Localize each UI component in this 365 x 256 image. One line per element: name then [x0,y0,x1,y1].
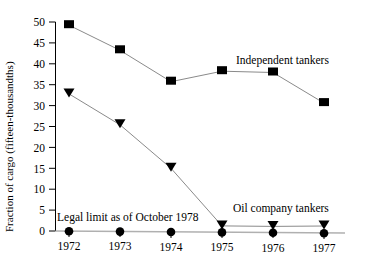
x-tick-label: 1972 [58,240,81,252]
y-tick-label: 30 [34,100,46,112]
data-point-marker [319,98,329,106]
chart-container: Fraction of cargo (fifteen-thousandths) … [0,0,365,256]
y-tick-label: 35 [34,79,46,91]
y-axis-title: Fraction of cargo (fifteen-thousandths) [3,61,16,232]
data-point-marker [116,227,125,236]
data-point-marker [65,227,74,236]
x-tick-label: 1975 [211,241,234,253]
y-tick-label: 10 [34,183,46,195]
y-tick-label: 25 [34,121,46,133]
x-tick-label: 1977 [313,242,336,254]
y-tick-label: 5 [39,204,45,216]
annotation-independent-tankers: Independent tankers [236,54,329,67]
data-point-marker [319,221,330,230]
y-tick-label: 45 [34,37,46,49]
data-point-marker [166,163,177,172]
data-point-marker [166,77,176,85]
y-tick-label: 15 [34,163,46,175]
data-point-marker [320,229,329,238]
data-point-marker [115,119,126,128]
x-tick-label: 1976 [262,242,285,254]
x-tick-labels: 1972 1973 1974 1975 1976 1977 [58,240,336,254]
y-tick-label: 50 [34,16,46,28]
data-point-marker [268,68,278,76]
y-tick-label: 40 [34,58,46,70]
data-point-marker [167,228,176,237]
y-tick-labels: 50 45 40 35 30 25 20 15 10 5 0 [34,16,46,237]
x-tick-label: 1974 [160,241,183,253]
legal-limit-zero-line [56,231,346,233]
data-point-marker [269,229,278,238]
y-tick-label: 20 [34,142,46,154]
x-tick-label: 1973 [109,240,132,252]
line-chart: Fraction of cargo (fifteen-thousandths) … [0,0,365,256]
data-point-marker [217,220,228,229]
data-point-marker [115,45,125,53]
annotation-legal-limit: Legal limit as of October 1978 [57,211,199,224]
y-tick-label: 0 [39,225,45,237]
annotation-oil-company-tankers: Oil company tankers [233,202,329,215]
data-point-marker [64,20,74,28]
data-point-marker [218,228,227,237]
data-point-marker [217,66,227,74]
y-tick-marks [49,22,56,231]
